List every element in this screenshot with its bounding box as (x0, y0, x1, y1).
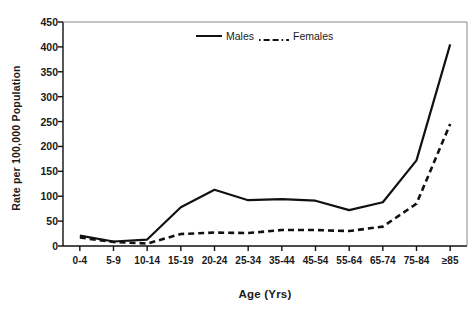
chart-figure: Rate per 100,000 Population 050100150200… (0, 0, 471, 313)
plot-area (0, 0, 471, 313)
data-series-layer (80, 44, 450, 243)
series-line-males (80, 44, 450, 241)
x-tick-marks (80, 246, 450, 251)
series-line-females (80, 124, 450, 243)
axis-frame (63, 22, 467, 246)
y-tick-marks (58, 22, 63, 246)
